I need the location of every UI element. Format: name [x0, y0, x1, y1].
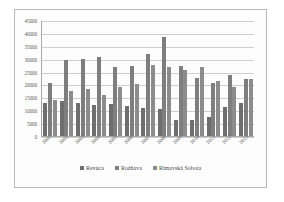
y-axis-tick-label: 5000 — [27, 121, 37, 127]
x-axis-tick-wrap: 2002 — [57, 139, 73, 165]
bar-rev-ca-2011 — [207, 117, 211, 136]
bar-rimavsk-sobota-2013 — [249, 79, 253, 136]
bar-group — [173, 21, 189, 136]
bar-ro-ava-2005 — [113, 67, 117, 136]
y-axis-tick-label: 45000 — [25, 18, 37, 24]
bar-rev-ca-2010 — [190, 120, 194, 136]
bar-rimavsk-sobota-2008 — [167, 67, 171, 136]
x-axis-tick-wrap: 2001 — [41, 139, 57, 165]
legend-label: Rimavská Sobota — [159, 165, 201, 171]
bar-rimavsk-sobota-2011 — [216, 81, 220, 136]
bar-ro-ava-2003 — [81, 59, 85, 136]
bar-group — [156, 21, 172, 136]
bar-rev-ca-2008 — [158, 109, 162, 136]
x-axis-tick-wrap: 2004 — [90, 139, 106, 165]
bar-rimavsk-sobota-2007 — [151, 65, 155, 136]
bar-rev-ca-2006 — [125, 106, 129, 136]
bar-rimavsk-sobota-2006 — [135, 84, 139, 136]
bar-ro-ava-2006 — [130, 66, 134, 136]
legend-swatch-icon — [115, 166, 119, 170]
x-axis-tick-wrap: 2005 — [107, 139, 123, 165]
legend-item[interactable]: Rimavská Sobota — [153, 165, 201, 171]
bar-rimavsk-sobota-2002 — [69, 91, 73, 136]
x-axis-tick-wrap: 2009 — [172, 139, 188, 165]
legend-label: Revúca — [86, 165, 104, 171]
y-axis-tick-label: 40000 — [25, 31, 37, 37]
bar-ro-ava-2013 — [244, 79, 248, 136]
y-axis-tick-label: 10000 — [25, 108, 37, 114]
bar-rev-ca-2013 — [239, 103, 243, 137]
bar-group — [91, 21, 107, 136]
plot-area — [41, 21, 254, 137]
x-axis-tick-wrap: 2011 — [205, 139, 221, 165]
bar-group — [124, 21, 140, 136]
bar-group — [107, 21, 123, 136]
bar-rimavsk-sobota-2010 — [200, 67, 204, 136]
bar-ro-ava-2001 — [48, 83, 52, 136]
chart-frame: 0500010000150002000025000300003500040000… — [14, 9, 267, 188]
x-axis-labels: 2001200220032004200520062007200820092010… — [41, 139, 254, 165]
y-axis-tick-label: 35000 — [25, 44, 37, 50]
y-axis-tick-label: 30000 — [25, 57, 37, 63]
legend-item[interactable]: Revúca — [80, 165, 104, 171]
bar-rimavsk-sobota-2012 — [232, 87, 236, 136]
bar-group — [75, 21, 91, 136]
chart-legend: RevúcaRožňavaRimavská Sobota — [15, 165, 266, 171]
bar-ro-ava-2007 — [146, 54, 150, 136]
x-axis-tick-wrap: 2010 — [189, 139, 205, 165]
y-axis-tick-label: 20000 — [25, 82, 37, 88]
bar-rimavsk-sobota-2004 — [102, 95, 106, 136]
bar-ro-ava-2008 — [162, 37, 166, 136]
bar-rev-ca-2005 — [109, 104, 113, 136]
x-axis-tick-wrap: 2007 — [139, 139, 155, 165]
bar-ro-ava-2010 — [195, 78, 199, 136]
bar-group — [221, 21, 237, 136]
bar-group — [42, 21, 58, 136]
bar-rev-ca-2004 — [92, 105, 96, 136]
bar-ro-ava-2011 — [211, 83, 215, 136]
bar-rev-ca-2012 — [223, 107, 227, 136]
bar-ro-ava-2004 — [97, 57, 101, 136]
bar-group — [189, 21, 205, 136]
bar-rimavsk-sobota-2001 — [53, 100, 57, 136]
bar-rev-ca-2007 — [141, 108, 145, 136]
x-axis-tick-wrap: 2012 — [221, 139, 237, 165]
legend-swatch-icon — [153, 166, 157, 170]
y-axis-tick-label: 0 — [35, 134, 38, 140]
x-axis-tick-wrap: 2013 — [238, 139, 254, 165]
bar-ro-ava-2009 — [179, 66, 183, 136]
bar-rev-ca-2001 — [43, 103, 47, 136]
x-axis-tick-wrap: 2006 — [123, 139, 139, 165]
bar-rimavsk-sobota-2009 — [183, 70, 187, 136]
bar-rimavsk-sobota-2005 — [118, 87, 122, 136]
bar-group — [238, 21, 254, 136]
legend-label: Rožňava — [121, 165, 142, 171]
y-axis-tick-label: 15000 — [25, 95, 37, 101]
bar-groups — [42, 21, 254, 136]
legend-item[interactable]: Rožňava — [115, 165, 142, 171]
x-axis-tick-wrap: 2003 — [74, 139, 90, 165]
y-axis-tick-label: 25000 — [25, 70, 37, 76]
bar-group — [58, 21, 74, 136]
bar-ro-ava-2012 — [228, 75, 232, 136]
bar-ro-ava-2002 — [64, 60, 68, 136]
y-axis-labels: 0500010000150002000025000300003500040000… — [15, 21, 39, 137]
bar-rimavsk-sobota-2003 — [86, 89, 90, 136]
bar-rev-ca-2003 — [76, 103, 80, 136]
bar-group — [140, 21, 156, 136]
bar-group — [205, 21, 221, 136]
x-axis-tick-wrap: 2008 — [156, 139, 172, 165]
bar-rev-ca-2002 — [60, 101, 64, 136]
legend-swatch-icon — [80, 166, 84, 170]
